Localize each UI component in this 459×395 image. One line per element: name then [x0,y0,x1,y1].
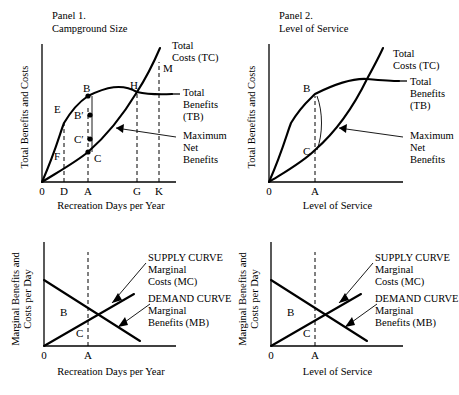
panel-1-point-Bprime-dot [87,112,92,117]
panel-3-tick-A: A [81,349,95,361]
panel-4-point-B: B [287,306,294,318]
panel-1-tick-origin: 0 [35,185,49,197]
panel-1-point-E: E [54,103,61,115]
panel-3-point-C: C [76,327,83,339]
panel-1-point-C: C [94,152,101,164]
panel-3-marginal: Marginal Benefits and Costs per Day 0 A … [0,230,232,395]
panel-2-point-C: C [303,145,310,157]
panel-1-point-C-dot [85,149,90,154]
panel-1-tick-K: K [152,185,166,197]
panel-4-tick-A: A [308,349,322,361]
panel-3-x-axis-label: Recreation Days per Year [36,366,186,377]
panel-2-label-total-benefits: Total Benefits (TB) [410,76,445,113]
panel-1-tick-A: A [81,185,95,197]
panel-2-total-costs-curve [269,48,383,182]
panel-2-point-B: B [303,82,310,94]
panel-2-net-benefit-bracket [317,96,322,150]
panel-3-demand-curve [44,280,140,341]
panel-1-label-max-net-benefits: Maximum Net Benefits [183,130,227,167]
panel-4-tick-origin: 0 [264,349,278,361]
panel-1-tick-G: G [130,185,144,197]
panel-2-tick-A: A [308,185,322,197]
panel-4-demand-curve [271,280,367,341]
panel-3-label-supply-curve: SUPPLY CURVE Marginal Costs (MC) [148,252,223,289]
panel-1-net-benefits-arrowhead [116,124,124,133]
panel-2-total: Panel 2. Level of Service Total Benefits… [227,0,459,222]
panel-1-tick-D: D [57,185,71,197]
panel-1-point-Cprime-dot [87,136,92,141]
panel-3-tick-origin: 0 [37,349,51,361]
panel-1-point-C-prime: C′ [74,133,84,145]
panel-1-label-total-costs: Total Costs (TC) [172,40,218,64]
panel-4-label-demand-curve: DEMAND CURVE Marginal Benefits (MB) [375,293,458,330]
panel-1-point-B: B [83,82,90,94]
panel-2-net-benefits-arrowhead [339,124,347,133]
panel-1-point-B-dot [85,93,90,98]
panel-3-demand-arrowhead [118,317,128,327]
panel-4-demand-arrowhead [345,317,355,327]
panel-2-label-total-costs: Total Costs (TC) [393,48,439,72]
panel-1-point-H: H [130,79,138,91]
panel-1-label-total-benefits: Total Benefits (TB) [183,87,218,124]
panel-2-tick-origin: 0 [262,185,276,197]
panel-3-label-demand-curve: DEMAND CURVE Marginal Benefits (MB) [148,293,231,330]
panel-1-x-axis-label: Recreation Days per Year [36,200,186,211]
panel-1-point-F: F [54,150,60,162]
panel-3-supply-curve [44,294,134,346]
panel-1-net-benefits-leader [116,128,176,137]
panel-4-supply-curve [271,294,361,346]
panel-3-point-B: B [60,306,67,318]
panel-4-marginal: Marginal Benefits and Costs per Day 0 A … [227,230,459,395]
panel-4-point-C: C [303,327,310,339]
panel-1-point-B-prime: B′ [74,109,84,121]
panel-4-x-axis-label: Level of Service [270,366,405,377]
panel-2-net-benefits-leader [339,128,403,137]
panel-1-total: Panel 1. Campground Size Total Benefits … [0,0,232,222]
panel-2-label-max-net-benefits: Maximum Net Benefits [410,130,454,167]
panel-2-x-axis-label: Level of Service [270,200,405,211]
panel-4-label-supply-curve: SUPPLY CURVE Marginal Costs (MC) [375,252,450,289]
